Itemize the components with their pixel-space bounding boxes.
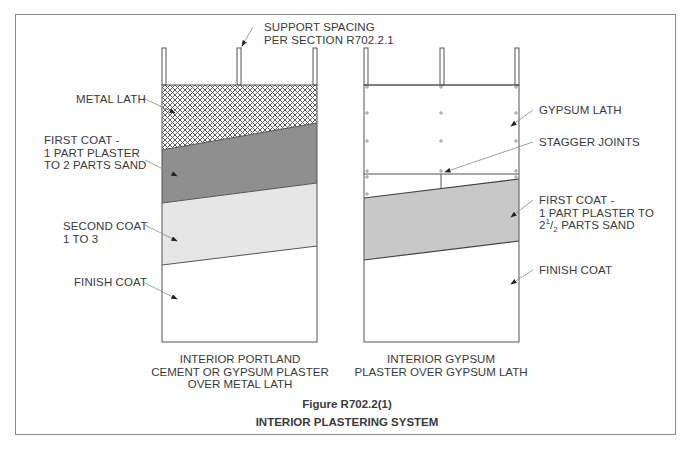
stud xyxy=(313,48,317,85)
stud xyxy=(162,48,166,85)
gypsum-lath-label: GYPSUM LATH xyxy=(539,104,622,117)
stud xyxy=(515,48,519,85)
first-coat-layer-right xyxy=(364,179,519,260)
stagger-joints-label: STAGGER JOINTS xyxy=(539,136,640,149)
finish-coat-label-left: FINISH COAT xyxy=(74,276,147,289)
first-coat-label-right: FIRST COAT -1 PART PLASTER TO21/2 PARTS … xyxy=(539,194,654,232)
figure-number: Figure R702.2(1) xyxy=(0,398,694,410)
left-caption: INTERIOR PORTLANDCEMENT OR GYPSUM PLASTE… xyxy=(140,353,340,391)
left-assembly xyxy=(162,48,317,342)
right-caption: INTERIOR GYPSUMPLASTER OVER GYPSUM LATH xyxy=(341,353,541,378)
stud xyxy=(440,48,444,85)
right-assembly xyxy=(364,48,519,342)
stud xyxy=(237,48,241,85)
first-coat-label-left: FIRST COAT -1 PART PLASTERTO 2 PARTS SAN… xyxy=(44,134,146,172)
figure-title: INTERIOR PLASTERING SYSTEM xyxy=(0,416,694,428)
metal-lath-label: METAL LATH xyxy=(76,93,146,106)
support-spacing-label: SUPPORT SPACINGPER SECTION R702.2.1 xyxy=(264,21,394,46)
stud xyxy=(364,48,368,85)
second-coat-label: SECOND COAT1 TO 3 xyxy=(63,220,148,245)
finish-coat-label-right: FINISH COAT xyxy=(539,264,612,277)
